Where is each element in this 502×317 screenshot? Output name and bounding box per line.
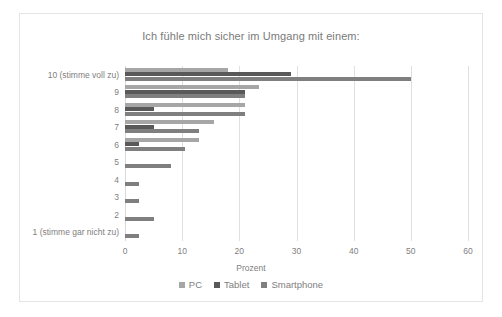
bar-pc-2 xyxy=(125,103,245,107)
category-row: 5 xyxy=(125,154,468,172)
y-axis-category-label: 6 xyxy=(114,140,119,150)
x-axis-title: Prozent xyxy=(20,263,482,273)
y-axis-category-label: 1 (stimme gar nicht zu) xyxy=(33,227,119,237)
bar-smartphone-2 xyxy=(125,112,245,116)
legend-item-pc[interactable]: PC xyxy=(179,279,202,290)
bar-tablet-1 xyxy=(125,90,245,94)
y-axis-category-label: 8 xyxy=(114,105,119,115)
legend-swatch-icon xyxy=(261,282,267,288)
x-axis-tick-labels: 0102030405060 xyxy=(125,246,468,260)
category-row: 10 (stimme voll zu) xyxy=(125,66,468,84)
chart-frame: Ich fühle mich sicher im Umgang mit eine… xyxy=(19,13,483,302)
bar-tablet-3 xyxy=(125,125,154,129)
bar-smartphone-7 xyxy=(125,199,139,203)
category-row: 2 xyxy=(125,206,468,224)
x-axis-tick-60: 60 xyxy=(463,246,472,256)
y-axis-category-label: 4 xyxy=(114,175,119,185)
bar-tablet-4 xyxy=(125,142,139,146)
legend-label: Tablet xyxy=(224,279,249,290)
y-axis-category-label: 10 (stimme voll zu) xyxy=(48,70,119,80)
legend-item-smartphone[interactable]: Smartphone xyxy=(261,279,323,290)
bar-smartphone-6 xyxy=(125,182,139,186)
bar-smartphone-9 xyxy=(125,234,139,238)
bar-pc-4 xyxy=(125,138,199,142)
gridline-60 xyxy=(468,66,469,241)
legend-swatch-icon xyxy=(214,282,220,288)
category-row: 7 xyxy=(125,119,468,137)
bar-smartphone-1 xyxy=(125,94,245,98)
x-axis-tick-10: 10 xyxy=(177,246,186,256)
bar-tablet-0 xyxy=(125,72,291,76)
category-row: 9 xyxy=(125,84,468,102)
category-row: 1 (stimme gar nicht zu) xyxy=(125,224,468,242)
category-row: 8 xyxy=(125,101,468,119)
legend-label: PC xyxy=(189,279,202,290)
legend-swatch-icon xyxy=(179,282,185,288)
x-axis-tick-40: 40 xyxy=(349,246,358,256)
y-axis-category-label: 5 xyxy=(114,157,119,167)
bar-pc-1 xyxy=(125,85,259,89)
x-axis-tick-0: 0 xyxy=(123,246,128,256)
bar-pc-3 xyxy=(125,120,214,124)
legend-label: Smartphone xyxy=(271,279,323,290)
bar-smartphone-0 xyxy=(125,77,411,81)
plot-area: 10 (stimme voll zu)987654321 (stimme gar… xyxy=(125,66,468,241)
chart-legend: PCTabletSmartphone xyxy=(20,279,482,290)
y-axis-category-label: 7 xyxy=(114,122,119,132)
bar-smartphone-3 xyxy=(125,129,199,133)
x-axis-tick-30: 30 xyxy=(292,246,301,256)
bar-tablet-2 xyxy=(125,107,154,111)
chart-title: Ich fühle mich sicher im Umgang mit eine… xyxy=(20,30,482,42)
legend-item-tablet[interactable]: Tablet xyxy=(214,279,249,290)
y-axis-category-label: 2 xyxy=(114,210,119,220)
bar-smartphone-4 xyxy=(125,147,185,151)
y-axis-category-label: 9 xyxy=(114,87,119,97)
bar-pc-0 xyxy=(125,68,228,72)
category-row: 6 xyxy=(125,136,468,154)
x-axis-tick-50: 50 xyxy=(406,246,415,256)
bar-smartphone-8 xyxy=(125,217,154,221)
y-axis-category-label: 3 xyxy=(114,192,119,202)
category-row: 4 xyxy=(125,171,468,189)
bar-smartphone-5 xyxy=(125,164,171,168)
x-axis-tick-20: 20 xyxy=(235,246,244,256)
category-row: 3 xyxy=(125,189,468,207)
